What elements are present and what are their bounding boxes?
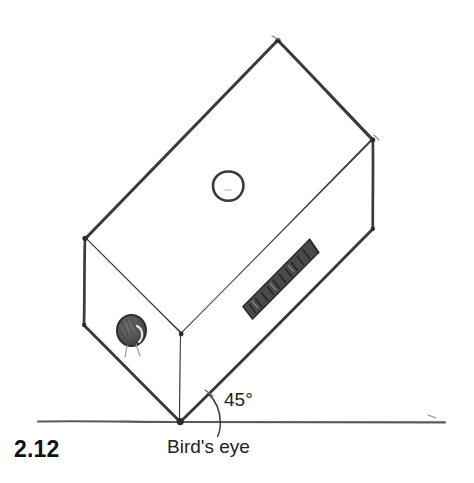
ground-line-tick-right [428,415,436,418]
birds-eye-caption: Bird's eye [167,437,250,456]
angle-arc [209,394,221,422]
vertex-mark-left-bottom [82,323,86,327]
figure-number-label: 2.12 [14,438,60,461]
vertex-mark-left-top [82,236,87,241]
apex-overshoot-stroke [272,36,279,40]
ground-line [38,421,445,422]
figure-container: 2.12 Bird's eye 45° [0,0,474,483]
top-face-hole-outline [213,171,243,200]
ground-line-group [38,415,445,422]
top-face-hole [213,171,243,200]
vertex-mark-right-top [370,137,375,142]
front-face-edge-left-vertical [84,239,85,326]
angle-arc-extension [218,422,221,437]
vertex-mark-right-bottom [371,227,375,231]
box-sketch-svg [0,0,474,483]
angle-value-label: 45° [224,390,253,409]
vertex-mark-bottom-tip [177,418,184,425]
vertex-mark-front-middle [179,332,184,337]
